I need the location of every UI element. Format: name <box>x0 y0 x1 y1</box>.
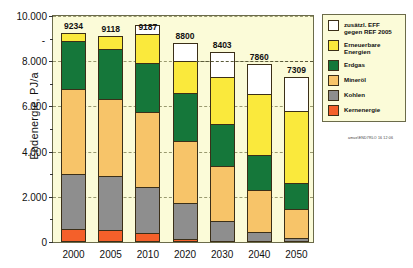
chart-legend: zusätzl. EFFgegen REF 2005ErneuerbareEne… <box>322 14 406 122</box>
bar-segment <box>210 166 235 220</box>
bar-segment <box>284 183 309 209</box>
bar-2010[interactable]: 91872010 <box>135 25 160 242</box>
y-axis-minor-tick <box>50 219 53 220</box>
bar-segment <box>173 61 198 93</box>
bar-segment <box>61 174 86 229</box>
plot-inner: 02.0004.0006.0008.00010.000-923420009118… <box>53 16 313 242</box>
x-axis-label-2010: 2010 <box>137 249 159 260</box>
legend-swatch-icon <box>328 60 339 71</box>
y-axis-minor-tick <box>50 129 53 130</box>
bar-2020[interactable]: 88002020 <box>173 43 198 242</box>
legend-item[interactable]: Kohlen <box>328 90 401 101</box>
y-axis-tick <box>49 197 53 198</box>
y-axis-tick <box>49 106 53 107</box>
bar-total-label: 8800 <box>176 31 195 41</box>
bar-segment <box>247 232 272 242</box>
bar-segment <box>210 124 235 167</box>
legend-item[interactable]: ErneuerbareEnergien <box>328 40 401 56</box>
bar-segment <box>173 141 198 202</box>
y-axis-tick <box>49 242 53 243</box>
bar-segment <box>98 99 123 176</box>
axis-dot-marker: - <box>42 35 45 46</box>
bar-segment <box>210 52 235 76</box>
bar-segment <box>135 233 160 242</box>
x-axis-label-2040: 2040 <box>248 249 270 260</box>
bar-segment <box>173 43 198 61</box>
y-axis-tick <box>49 61 53 62</box>
bar-segment <box>284 77 309 111</box>
x-axis-label-2050: 2050 <box>285 249 307 260</box>
bar-segment <box>61 89 86 174</box>
source-stamp: amue\END7RLO 16 12:06 <box>348 136 393 140</box>
bar-segment <box>247 64 272 94</box>
bar-segment <box>135 112 160 187</box>
bar-segment <box>210 221 235 242</box>
bar-segment <box>98 36 123 49</box>
bar-total-label: 9118 <box>101 24 119 34</box>
bar-segment <box>284 238 309 242</box>
bar-segment <box>61 33 86 41</box>
bar-segment <box>247 190 272 232</box>
x-axis-label-2000: 2000 <box>62 249 84 260</box>
gridline <box>53 16 313 17</box>
legend-swatch-icon <box>328 90 339 101</box>
x-axis-label-2020: 2020 <box>174 249 196 260</box>
bar-segment <box>135 34 160 63</box>
legend-item-label: ErneuerbareEnergien <box>344 40 380 56</box>
legend-item-label: Mineröl <box>344 75 366 83</box>
y-axis-tick-label: 8.000 <box>22 56 47 67</box>
bar-total-label: 9234 <box>64 21 83 31</box>
y-axis-tick <box>49 152 53 153</box>
bar-segment <box>98 230 123 242</box>
y-axis-tick-label: 0 <box>41 237 47 248</box>
energy-stacked-bar-chart: Endenergie, PJ/a 02.0004.0006.0008.00010… <box>0 0 413 268</box>
y-axis-minor-tick <box>50 174 53 175</box>
legend-item[interactable]: zusätzl. EFFgegen REF 2005 <box>328 20 401 36</box>
bar-total-label: 9187 <box>138 22 157 32</box>
x-axis-label-2030: 2030 <box>211 249 233 260</box>
legend-swatch-icon <box>328 105 339 116</box>
bar-2005[interactable]: 91182005 <box>98 36 123 242</box>
y-axis-tick-label: 6.000 <box>22 101 47 112</box>
legend-item[interactable]: Kernenergie <box>328 105 401 116</box>
bar-2050[interactable]: 73092050 <box>284 77 309 242</box>
bar-2000[interactable]: 92342000 <box>61 33 86 242</box>
reference-line <box>196 61 313 62</box>
bar-2030[interactable]: 84032030 <box>210 52 235 242</box>
y-axis-tick <box>49 16 53 17</box>
bar-total-label: 8403 <box>213 40 232 50</box>
y-axis-minor-tick <box>50 39 53 40</box>
legend-item-label: Kohlen <box>344 90 365 98</box>
bar-segment <box>98 176 123 230</box>
bar-segment <box>61 41 86 89</box>
bar-segment <box>210 77 235 124</box>
plot-area: 02.0004.0006.0008.00010.000-923420009118… <box>52 15 314 243</box>
bar-total-label: 7309 <box>287 65 306 75</box>
bar-segment <box>284 209 309 238</box>
y-axis-minor-tick <box>50 84 53 85</box>
legend-item[interactable]: Mineröl <box>328 75 401 86</box>
legend-swatch-icon <box>328 20 339 31</box>
x-axis-label-2005: 2005 <box>100 249 122 260</box>
legend-item-label: Erdgas <box>344 60 365 68</box>
bar-segment <box>173 203 198 239</box>
legend-item-label: Kernenergie <box>344 105 380 113</box>
bar-segment <box>98 49 123 100</box>
bar-segment <box>135 63 160 112</box>
legend-item-label: zusätzl. EFFgegen REF 2005 <box>344 20 392 36</box>
bar-segment <box>135 187 160 232</box>
y-axis-tick-label: 10.000 <box>16 11 47 22</box>
bar-2040[interactable]: 78602040 <box>247 64 272 242</box>
legend-swatch-icon <box>328 75 339 86</box>
bar-segment <box>173 93 198 141</box>
y-axis-tick-label: 4.000 <box>22 146 47 157</box>
legend-swatch-icon <box>328 40 339 51</box>
bar-segment <box>61 229 86 242</box>
bar-segment <box>247 155 272 190</box>
bar-segment <box>284 111 309 183</box>
legend-item[interactable]: Erdgas <box>328 60 401 71</box>
bar-segment <box>247 94 272 155</box>
bar-segment <box>173 239 198 242</box>
y-axis-tick-label: 2.000 <box>22 191 47 202</box>
